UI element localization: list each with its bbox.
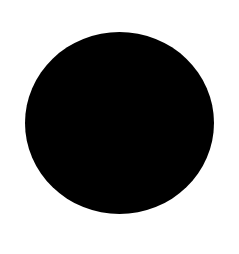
circle-graphic [0,0,239,254]
filled-circle [25,32,214,214]
canvas [0,0,239,254]
